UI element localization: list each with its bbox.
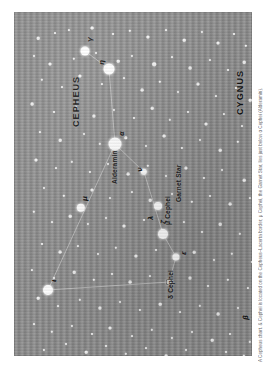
field-star bbox=[53, 111, 55, 113]
star-label-garnet-star: Garnet Star bbox=[175, 164, 182, 202]
field-star bbox=[241, 125, 243, 127]
field-star bbox=[37, 37, 40, 40]
field-star bbox=[183, 221, 185, 223]
field-star bbox=[54, 32, 56, 34]
field-star bbox=[217, 313, 220, 316]
field-star bbox=[229, 333, 231, 335]
star-alpha-cephei bbox=[109, 138, 122, 151]
field-star bbox=[107, 163, 109, 165]
field-star bbox=[131, 191, 133, 193]
field-star bbox=[33, 323, 35, 325]
field-star bbox=[225, 351, 227, 353]
field-star bbox=[177, 91, 179, 93]
field-star bbox=[141, 89, 144, 92]
field-star bbox=[129, 281, 132, 284]
field-star bbox=[83, 133, 85, 135]
field-star bbox=[99, 143, 101, 145]
field-star bbox=[183, 39, 186, 42]
star-mu-symbol-star bbox=[77, 204, 85, 212]
field-star bbox=[59, 139, 62, 142]
field-star bbox=[151, 107, 154, 110]
field-star bbox=[79, 299, 81, 301]
field-star bbox=[146, 35, 149, 38]
field-star bbox=[237, 141, 239, 143]
field-star bbox=[181, 147, 183, 149]
field-star bbox=[205, 123, 208, 126]
field-star bbox=[115, 247, 117, 249]
field-star bbox=[105, 345, 107, 347]
field-star bbox=[125, 353, 127, 355]
field-star bbox=[221, 169, 223, 171]
field-star bbox=[61, 86, 63, 88]
greek-letter-gamma: γ bbox=[86, 37, 94, 42]
star-field: CEPHEUSCYGNUSLACERTAAlderaminμ CepheiGar… bbox=[14, 12, 252, 356]
field-star bbox=[171, 337, 173, 339]
field-star bbox=[249, 99, 252, 102]
field-star bbox=[171, 193, 173, 195]
figure-caption: A Cepheus chart. & Cephei is located on … bbox=[258, 10, 264, 362]
field-star bbox=[209, 59, 211, 61]
field-star bbox=[119, 301, 121, 303]
field-star bbox=[59, 251, 62, 254]
field-star bbox=[93, 279, 95, 281]
field-star bbox=[199, 139, 201, 141]
field-star bbox=[191, 201, 193, 203]
field-star bbox=[147, 165, 149, 167]
star-epsilon-cephei bbox=[172, 253, 179, 260]
field-star bbox=[189, 277, 192, 280]
field-star bbox=[31, 103, 34, 106]
field-star bbox=[227, 279, 229, 281]
field-star bbox=[201, 31, 203, 33]
field-star bbox=[227, 69, 229, 71]
field-star bbox=[131, 335, 133, 337]
greek-letter-mu-sym: μ bbox=[81, 196, 89, 201]
field-star bbox=[51, 221, 53, 223]
field-star bbox=[249, 341, 251, 343]
field-star bbox=[223, 113, 225, 115]
field-star bbox=[95, 52, 97, 54]
field-star bbox=[124, 136, 127, 139]
star-eta-cephei bbox=[104, 64, 115, 75]
greek-letter-beta-lac: β bbox=[242, 315, 250, 320]
field-star bbox=[187, 111, 189, 113]
field-star bbox=[243, 355, 245, 356]
field-star bbox=[197, 83, 200, 86]
field-star bbox=[105, 217, 107, 219]
field-star bbox=[189, 67, 192, 70]
field-star bbox=[117, 60, 120, 63]
field-star bbox=[163, 135, 166, 138]
field-star bbox=[184, 166, 187, 169]
field-star bbox=[145, 145, 147, 147]
field-star bbox=[217, 42, 220, 45]
field-star bbox=[35, 159, 38, 162]
field-star bbox=[191, 331, 193, 333]
field-star bbox=[151, 329, 153, 331]
field-star bbox=[43, 187, 45, 189]
field-star bbox=[165, 355, 168, 356]
field-star bbox=[207, 285, 209, 287]
field-star bbox=[209, 195, 211, 197]
star-gamma-cephei bbox=[81, 47, 90, 56]
field-star bbox=[199, 305, 201, 307]
field-star bbox=[193, 251, 196, 254]
field-star bbox=[219, 149, 222, 152]
field-star bbox=[179, 311, 181, 313]
star-chart-figure: CEPHEUSCYGNUSLACERTAAlderaminμ CepheiGar… bbox=[0, 0, 268, 367]
greek-letter-lambda: λ bbox=[147, 215, 155, 220]
field-star bbox=[231, 253, 233, 255]
field-star bbox=[247, 287, 249, 289]
field-star bbox=[165, 29, 167, 31]
field-star bbox=[113, 109, 115, 111]
field-star bbox=[68, 29, 70, 31]
field-star bbox=[37, 297, 40, 300]
field-star bbox=[87, 223, 89, 225]
field-star bbox=[143, 219, 145, 221]
field-star bbox=[145, 347, 147, 349]
field-star bbox=[185, 349, 187, 351]
field-star bbox=[97, 253, 99, 255]
field-star bbox=[155, 249, 157, 251]
field-star bbox=[69, 215, 72, 218]
field-star bbox=[165, 175, 167, 177]
field-star bbox=[123, 225, 126, 228]
field-star bbox=[41, 243, 43, 245]
